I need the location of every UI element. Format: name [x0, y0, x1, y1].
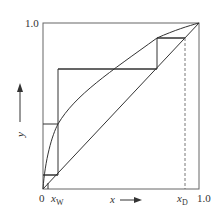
origin-label: 0 — [39, 192, 45, 204]
x-axis-label: x — [109, 193, 115, 205]
xd-label: xD — [176, 192, 188, 207]
y-axis-arrow-icon — [17, 83, 23, 92]
mccabe-thiele-diagram: y x 1.0 0 1.0 xW xD — [0, 0, 224, 220]
diagonal-line — [43, 23, 199, 189]
x-max-label: 1.0 — [197, 192, 211, 204]
y-axis-label: y — [14, 132, 26, 138]
y-max-label: 1.0 — [25, 17, 39, 29]
x-axis-arrow-icon — [134, 197, 142, 203]
stage-steps — [43, 38, 185, 175]
xw-label: xW — [50, 192, 64, 207]
